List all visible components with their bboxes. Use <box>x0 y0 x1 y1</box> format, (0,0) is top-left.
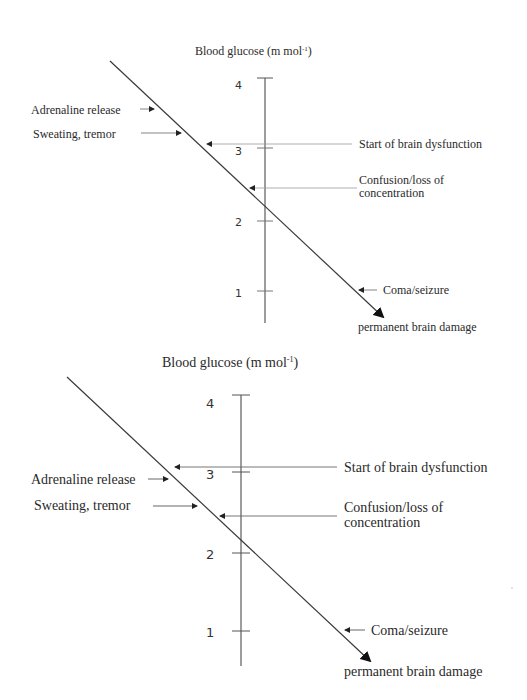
label-confusion: Confusion/loss of <box>359 173 444 187</box>
label-coma-seizure: Coma/seizure <box>383 283 449 297</box>
label-sweating-tremor: Sweating, tremor <box>34 498 131 513</box>
label-adrenaline-release: Adrenaline release <box>31 103 121 117</box>
label-permanent-brain-damage: permanent brain damage <box>358 320 477 334</box>
glucose-decline-line <box>67 377 370 661</box>
tick-label-3: 3 <box>206 467 214 482</box>
scan-speck <box>511 587 513 589</box>
tick-label-2: 2 <box>235 216 242 229</box>
label-confusion: Confusion/loss of <box>344 500 444 515</box>
label-concentration: concentration <box>344 515 420 530</box>
glucose-decline-line <box>110 61 383 317</box>
diagram-top: Blood glucose (m mol-1) 4 3 2 1 Adrenali… <box>31 44 482 334</box>
label-start-brain-dysfunction: Start of brain dysfunction <box>359 137 482 151</box>
tick-label-2: 2 <box>206 547 214 562</box>
tick-label-1: 1 <box>206 625 214 640</box>
tick-label-4: 4 <box>235 79 242 92</box>
diagram-bottom: Blood glucose (m mol-1) 4 3 2 1 Adrenali… <box>31 355 487 679</box>
tick-label-4: 4 <box>206 396 214 411</box>
label-concentration: concentration <box>359 186 424 200</box>
axis-title: Blood glucose (m mol-1) <box>162 355 299 371</box>
label-sweating-tremor: Sweating, tremor <box>33 127 116 141</box>
hypoglycemia-diagrams: Blood glucose (m mol-1) 4 3 2 1 Adrenali… <box>0 0 527 700</box>
label-coma-seizure: Coma/seizure <box>371 623 448 638</box>
label-permanent-brain-damage: permanent brain damage <box>344 664 482 679</box>
tick-label-1: 1 <box>235 287 242 300</box>
axis-title: Blood glucose (m mol-1) <box>195 44 312 58</box>
tick-label-3: 3 <box>235 145 242 158</box>
label-adrenaline-release: Adrenaline release <box>31 472 136 487</box>
label-start-brain-dysfunction: Start of brain dysfunction <box>344 460 487 475</box>
